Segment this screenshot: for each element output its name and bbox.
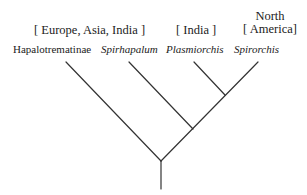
branch-hapalotrematinae — [66, 62, 161, 161]
branch-plasmiorchis — [194, 62, 225, 95]
branch-spirhapalum — [129, 62, 193, 129]
tree-branches — [0, 0, 307, 195]
